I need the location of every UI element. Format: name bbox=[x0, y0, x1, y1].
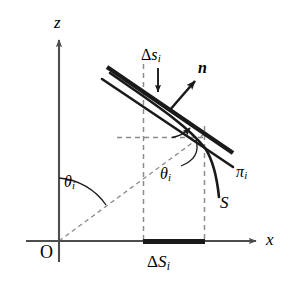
delta-S-subscript: i bbox=[167, 260, 170, 273]
theta-lower-subscript: i bbox=[72, 179, 75, 191]
theta-upper-base-glyph: θ bbox=[160, 165, 168, 182]
angle-arcs bbox=[59, 128, 197, 205]
normal-vector-arrow bbox=[169, 81, 195, 111]
delta-s-base-glyph: s bbox=[151, 46, 157, 63]
dashed-ray-from-origin bbox=[59, 132, 207, 241]
origin-label: O bbox=[40, 243, 53, 261]
z-axis-label: z bbox=[54, 14, 61, 31]
pi-subscript: i bbox=[244, 169, 247, 181]
theta-lower-label: θi bbox=[64, 174, 75, 191]
surface-label: S bbox=[220, 194, 229, 211]
figure-canvas: z x O Δsi n πi S θi θi ΔSi bbox=[0, 0, 294, 286]
theta-upper-leader bbox=[181, 140, 197, 166]
projection-label: ΔSi bbox=[147, 253, 170, 272]
pi-base-glyph: π bbox=[236, 163, 244, 180]
normal-vector-label: n bbox=[198, 60, 207, 76]
delta-S-delta-glyph: Δ bbox=[147, 252, 158, 271]
tangent-plane-label: πi bbox=[236, 164, 247, 181]
tangent-line-pi bbox=[102, 79, 233, 167]
theta-lower-base-glyph: θ bbox=[64, 173, 72, 190]
theta-upper-subscript: i bbox=[168, 171, 171, 183]
theta-upper-label: θi bbox=[160, 166, 171, 183]
delta-s-label: Δsi bbox=[141, 47, 161, 64]
delta-s-subscript: i bbox=[158, 52, 161, 64]
delta-S-base-glyph: S bbox=[158, 252, 167, 271]
axes bbox=[26, 40, 256, 262]
delta-s-delta-glyph: Δ bbox=[141, 46, 151, 63]
x-axis-label: x bbox=[266, 231, 274, 248]
